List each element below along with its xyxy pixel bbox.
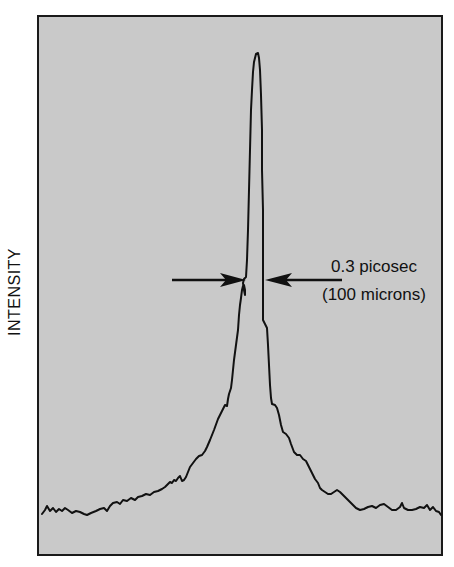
y-axis-label: INTENSITY [6, 248, 23, 336]
width-annotation-time: 0.3 picosec [331, 257, 417, 276]
intensity-chart: INTENSITY 0.3 picosec (100 microns) [0, 0, 454, 567]
width-annotation-distance: (100 microns) [322, 285, 426, 304]
